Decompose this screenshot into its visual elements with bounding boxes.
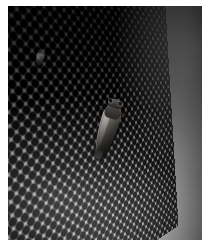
photo-border-bottom	[0, 240, 212, 248]
mesh-perspective-plane	[8, 6, 171, 240]
photo-border-top	[0, 0, 212, 6]
photograph	[8, 6, 202, 240]
mesh-hole-lattice-offset	[8, 6, 178, 240]
photo-border-left	[0, 0, 8, 248]
photo-border-right	[202, 0, 212, 248]
perforated-mesh-screen	[8, 6, 202, 240]
screenshot-root	[0, 0, 212, 248]
